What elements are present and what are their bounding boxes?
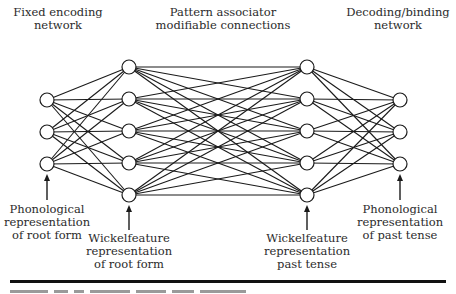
node-wickelfeature-past bbox=[300, 92, 314, 106]
connection-line bbox=[47, 163, 129, 164]
header-pattern-associator: Pattern associator modifiable connection… bbox=[156, 6, 291, 32]
connection-line bbox=[47, 67, 129, 100]
label-wickelfeature-past: Wickelfeature representation past tense bbox=[264, 232, 350, 271]
label-line: of past tense bbox=[357, 229, 443, 242]
node-phonological-past bbox=[393, 93, 407, 107]
node-phonological-root bbox=[40, 125, 54, 139]
node-wickelfeature-past bbox=[300, 156, 314, 170]
node-phonological-root bbox=[40, 93, 54, 107]
node-wickelfeature-root bbox=[122, 124, 136, 138]
node-phonological-past bbox=[393, 157, 407, 171]
node-wickelfeature-past bbox=[300, 188, 314, 202]
input-output-arrows bbox=[44, 174, 403, 230]
label-line: of root form bbox=[4, 229, 90, 242]
arrowhead-icon bbox=[126, 205, 132, 212]
figure-caption-cropped bbox=[10, 290, 270, 294]
figure-rule bbox=[10, 280, 446, 283]
node-wickelfeature-root bbox=[122, 188, 136, 202]
node-wickelfeature-past bbox=[300, 60, 314, 74]
node-phonological-past bbox=[393, 125, 407, 139]
header-fixed-encoding-network: Fixed encoding network bbox=[13, 6, 102, 32]
connection-line bbox=[307, 100, 400, 195]
connection-line bbox=[307, 67, 400, 100]
connection-line bbox=[47, 67, 129, 164]
label-phonological-past: Phonological representation of past tens… bbox=[357, 203, 443, 242]
connection-line bbox=[47, 164, 129, 195]
header-line: modifiable connections bbox=[156, 19, 291, 32]
node-wickelfeature-past bbox=[300, 124, 314, 138]
label-phonological-root: Phonological representation of root form bbox=[4, 203, 90, 242]
connection-line bbox=[307, 99, 400, 100]
connection-line bbox=[307, 164, 400, 195]
node-wickelfeature-root bbox=[122, 156, 136, 170]
header-line: network bbox=[13, 19, 102, 32]
node-wickelfeature-root bbox=[122, 60, 136, 74]
label-line: past tense bbox=[264, 258, 350, 271]
arrowhead-icon bbox=[304, 205, 310, 212]
node-phonological-root bbox=[40, 157, 54, 171]
connection-line bbox=[307, 100, 400, 131]
connection-lines bbox=[47, 67, 400, 195]
label-line: of root form bbox=[86, 258, 172, 271]
label-wickelfeature-root: Wickelfeature representation of root for… bbox=[86, 232, 172, 271]
connection-line bbox=[47, 131, 129, 164]
node-wickelfeature-root bbox=[122, 92, 136, 106]
header-line: network bbox=[346, 19, 449, 32]
network-diagram bbox=[0, 0, 456, 294]
arrowhead-icon bbox=[397, 174, 403, 181]
arrowhead-icon bbox=[44, 174, 50, 181]
header-decoding-binding-network: Decoding/binding network bbox=[346, 6, 449, 32]
